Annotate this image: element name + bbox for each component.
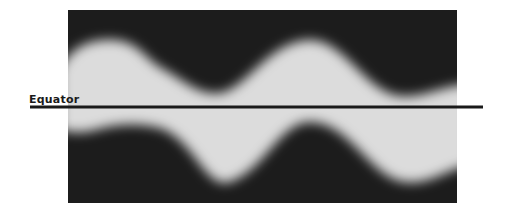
wave-band-diagram <box>0 0 505 213</box>
equator-label: Equator <box>29 93 79 106</box>
